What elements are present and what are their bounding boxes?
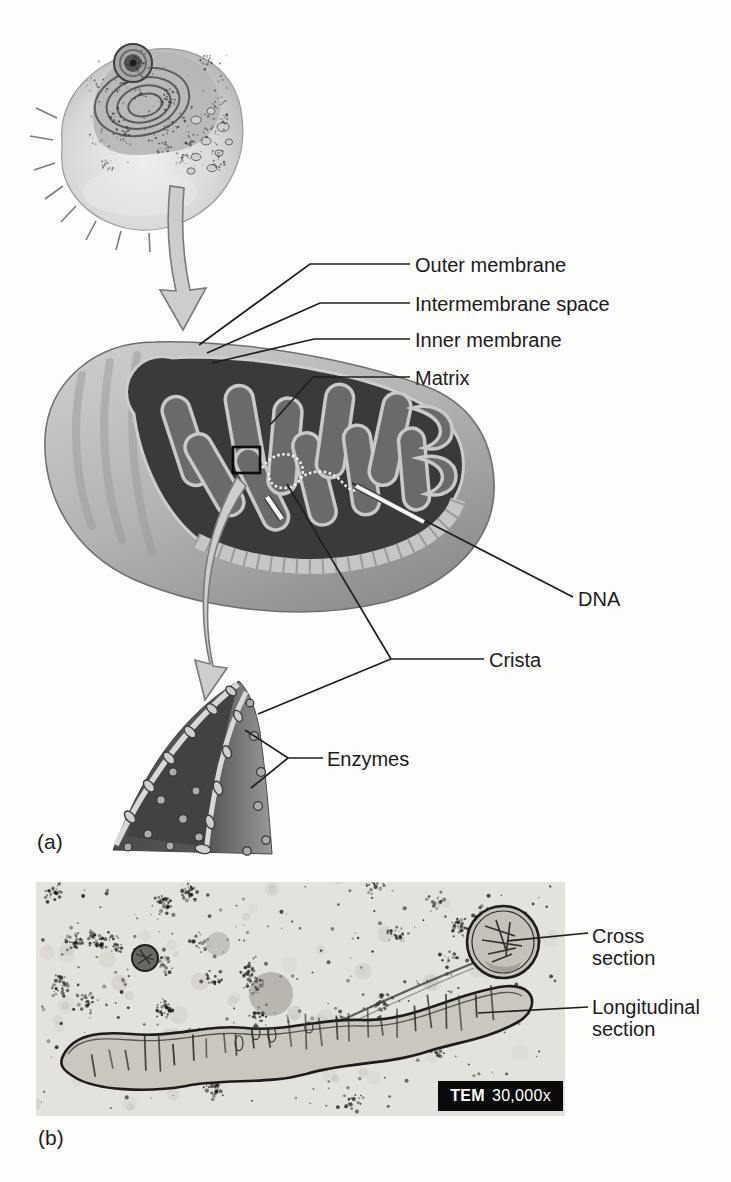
tem-technique: TEM: [450, 1087, 485, 1104]
cell-stipple-texture: [87, 50, 228, 171]
tem-dense-patch: [206, 932, 230, 956]
zoom-arrow-cell-to-mitochondrion: [160, 186, 206, 330]
label-crista: Crista: [489, 649, 541, 671]
white-pointer-tubes: [267, 486, 424, 522]
leader-crista-down: [258, 659, 391, 714]
crista-dark-face: [127, 681, 239, 847]
crista-detail-illustration: [113, 681, 272, 855]
label-dna: DNA: [578, 588, 620, 610]
label-enzymes: Enzymes: [327, 748, 409, 770]
tem-cross-section-mitochondrion: [467, 906, 539, 978]
figure-mitochondrion: TEM30,000x: [0, 0, 731, 1182]
zoom-arrow-to-crista: [195, 477, 246, 700]
cilia: [30, 108, 150, 252]
leader-outer-membrane: [199, 264, 410, 345]
tem-longitudinal-mitochondrion: [61, 985, 532, 1090]
panel-a-tag: (a): [37, 830, 63, 854]
cristae-folds: [158, 383, 456, 535]
leader-matrix: [271, 377, 410, 424]
leader-enzymes-lower: [251, 758, 288, 788]
crista-membrane-inner: [206, 692, 246, 852]
label-intermembrane-space: Intermembrane space: [415, 293, 610, 315]
dna-nucleoid: [262, 454, 362, 490]
cutaway-opening: [128, 358, 462, 570]
label-cross-section: Cross section: [592, 925, 670, 969]
cell-highlight: [82, 168, 198, 216]
cell-vesicles: [187, 108, 233, 175]
left-lobe-shading: [76, 355, 152, 552]
leader-intermembrane-space: [207, 303, 410, 353]
leader-inner-membrane: [212, 339, 410, 363]
cell-organelle-mass: [93, 52, 220, 155]
cell-nucleus-knob: [114, 44, 152, 82]
leader-crista-up: [287, 484, 391, 659]
tem-magnification-badge: TEM30,000x: [438, 1081, 563, 1111]
label-matrix: Matrix: [415, 367, 469, 389]
enzyme-bumps: [124, 699, 270, 855]
membrane-enzyme-beads: [122, 684, 244, 855]
endoplasmic-reticulum-whorl: [87, 58, 196, 145]
detail-box: [233, 447, 260, 473]
inner-rim-band: [196, 500, 458, 566]
tem-micrograph: TEM30,000x: [36, 882, 565, 1116]
leader-dna: [352, 483, 573, 597]
tem-magnification: 30,000x: [492, 1087, 551, 1104]
label-inner-membrane: Inner membrane: [415, 329, 562, 351]
label-longitudinal-section: Longitudinal section: [592, 996, 714, 1040]
label-outer-membrane: Outer membrane: [415, 254, 566, 276]
leader-enzymes-upper: [245, 730, 323, 758]
inner-rim-ribs: [196, 500, 458, 566]
cell-illustration: [30, 44, 243, 252]
tem-dense-patch: [249, 972, 293, 1016]
crista-membrane-outer: [116, 684, 238, 845]
panel-b-tag: (b): [38, 1126, 64, 1150]
